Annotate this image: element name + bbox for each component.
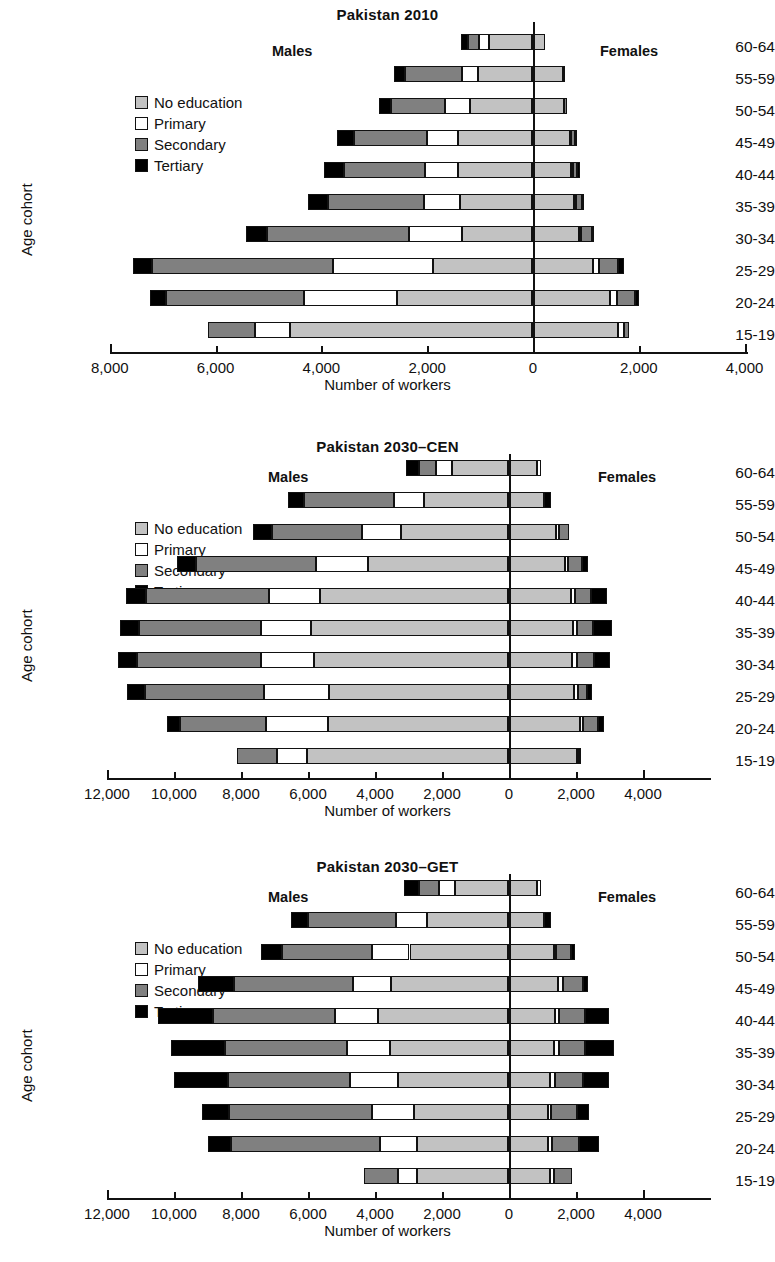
bar-segment-female-no_education: [508, 748, 577, 764]
bar-segment-male-secondary: [213, 1008, 336, 1024]
bar-segment-male-secondary: [308, 912, 396, 928]
bar-row: [0, 944, 775, 960]
x-axis-line: [107, 1198, 711, 1200]
bar-segment-female-no_education: [532, 162, 571, 178]
x-axis-title: Number of workers: [0, 1222, 775, 1239]
bar-segment-male-secondary: [405, 66, 462, 82]
bar-segment-female-secondary: [555, 1072, 583, 1088]
bar-segment-female-no_education: [532, 322, 618, 338]
bar-row: [0, 524, 775, 540]
bar-segment-male-tertiary: [120, 620, 139, 636]
bar-segment-female-no_education: [508, 1136, 548, 1152]
bar-segment-female-primary: [537, 460, 541, 476]
bar-segment-male-tertiary: [406, 460, 419, 476]
bar-segment-male-no_education: [433, 258, 532, 274]
bar-row: [0, 652, 775, 668]
x-axis-tick-label: 0: [505, 1205, 513, 1222]
bar-segment-male-no_education: [307, 748, 508, 764]
bar-segment-male-secondary: [229, 1104, 372, 1120]
bar-segment-male-no_education: [424, 492, 508, 508]
bar-segment-female-tertiary: [585, 1008, 609, 1024]
bar-segment-female-no_education: [508, 1040, 554, 1056]
x-axis-tick-label: 2,000: [557, 785, 595, 802]
x-axis-tick: [107, 770, 109, 778]
x-axis-tick: [576, 1192, 578, 1198]
x-axis-tick-label: 6,000: [289, 785, 327, 802]
bar-segment-male-no_education: [398, 1072, 508, 1088]
bar-segment-male-secondary: [354, 130, 426, 146]
bar-segment-female-secondary: [551, 1104, 577, 1120]
bar-segment-male-no_education: [368, 556, 508, 572]
x-axis-tick-label: 12,000: [84, 785, 130, 802]
x-axis-tick-label: 2,000: [620, 359, 658, 376]
bar-row: [0, 34, 775, 50]
bar-segment-male-tertiary: [324, 162, 344, 178]
bar-segment-female-secondary: [577, 652, 595, 668]
bar-segment-male-secondary: [304, 492, 394, 508]
bar-segment-male-tertiary: [127, 684, 145, 700]
x-axis-tick: [442, 1192, 444, 1198]
bar-segment-female-secondary: [577, 620, 594, 636]
x-axis-tick-label: 2,000: [408, 359, 446, 376]
bar-segment-female-tertiary: [583, 976, 588, 992]
bar-segment-male-no_education: [311, 620, 508, 636]
bar-segment-male-secondary: [237, 748, 277, 764]
primary-swatch-icon: [135, 543, 148, 556]
x-axis-tick: [643, 1190, 645, 1198]
bar-segment-female-no_education: [508, 652, 572, 668]
bar-segment-male-secondary: [468, 34, 479, 50]
bar-segment-female-secondary: [563, 976, 583, 992]
x-axis-tick-label: 6,000: [289, 1205, 327, 1222]
bar-segment-female-secondary: [559, 524, 569, 540]
bar-segment-male-secondary: [145, 684, 264, 700]
bar-segment-male-no_education: [329, 684, 508, 700]
x-axis-tick-label: 8,000: [222, 1205, 260, 1222]
bar-segment-female-secondary: [556, 944, 570, 960]
bar-segment-male-tertiary: [171, 1040, 225, 1056]
bar-row: [0, 194, 775, 210]
bar-row: [0, 880, 775, 896]
bar-row: [0, 1008, 775, 1024]
x-axis-tick-label: 4,000: [726, 359, 764, 376]
bar-segment-female-no_education: [508, 880, 537, 896]
bar-segment-female-primary: [610, 290, 617, 306]
bar-segment-female-secondary: [583, 716, 599, 732]
bar-segment-female-no_education: [508, 460, 537, 476]
bar-segment-male-tertiary: [118, 652, 137, 668]
x-axis-tick-label: 4,000: [624, 1205, 662, 1222]
bar-segment-male-primary: [398, 1168, 416, 1184]
bar-segment-female-no_education: [508, 684, 574, 700]
bar-segment-male-tertiary: [158, 1008, 213, 1024]
bar-row: [0, 1040, 775, 1056]
bar-segment-male-primary: [439, 880, 455, 896]
x-axis-tick-label: 0: [505, 785, 513, 802]
bar-segment-male-no_education: [314, 652, 508, 668]
x-axis-tick: [427, 346, 429, 352]
bar-segment-male-secondary: [208, 322, 256, 338]
bar-segment-female-tertiary: [577, 162, 579, 178]
x-axis-line: [110, 352, 748, 354]
bar-segment-female-tertiary: [575, 130, 577, 146]
bar-row: [0, 588, 775, 604]
bar-segment-male-no_education: [460, 194, 532, 210]
bar-segment-female-no_education: [532, 194, 574, 210]
bar-row: [0, 258, 775, 274]
x-axis-tick: [241, 772, 243, 778]
bar-row: [0, 162, 775, 178]
x-axis-tick: [509, 772, 511, 778]
x-axis-line: [107, 778, 711, 780]
bar-segment-female-no_education: [508, 944, 554, 960]
bar-segment-female-tertiary: [544, 912, 551, 928]
bar-segment-female-tertiary: [635, 290, 639, 306]
chart-panel-1: Pakistan 2010MalesFemalesAge cohortNumbe…: [0, 0, 775, 420]
bar-segment-female-tertiary: [592, 226, 595, 242]
bar-segment-female-no_education: [508, 912, 544, 928]
bar-segment-male-no_education: [414, 1104, 508, 1120]
x-axis-tick-label: 2,000: [423, 785, 461, 802]
bar-segment-male-primary: [372, 1104, 414, 1120]
bar-segment-male-secondary: [364, 1168, 399, 1184]
bar-segment-male-tertiary: [253, 524, 272, 540]
chart-title: Pakistan 2030–CEN: [0, 438, 775, 455]
bar-segment-female-no_education: [532, 66, 563, 82]
bar-segment-female-tertiary: [579, 1136, 599, 1152]
